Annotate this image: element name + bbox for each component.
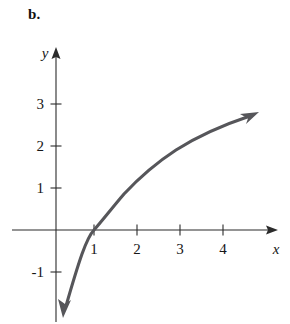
x-tick-label-3: 3	[176, 241, 184, 257]
y-tick-label-2: 2	[37, 138, 45, 154]
curve-arrowhead-lower	[58, 299, 71, 318]
logarithmic-curve	[66, 116, 250, 306]
x-axis-label: x	[272, 241, 280, 257]
y-tick-label-1: 1	[37, 180, 45, 196]
x-tick-label-1: 1	[90, 241, 98, 257]
coordinate-plane-graph: 1 2 3 4 3 2 1 -1 x y	[0, 0, 290, 324]
y-tick-label-3: 3	[37, 96, 45, 112]
x-tick-label-2: 2	[133, 241, 141, 257]
y-axis-label: y	[40, 45, 49, 61]
y-tick-label-neg1: -1	[32, 264, 45, 280]
figure-container: b. 1 2 3 4 3 2 1 -1	[0, 0, 290, 324]
x-tick-label-4: 4	[219, 241, 227, 257]
